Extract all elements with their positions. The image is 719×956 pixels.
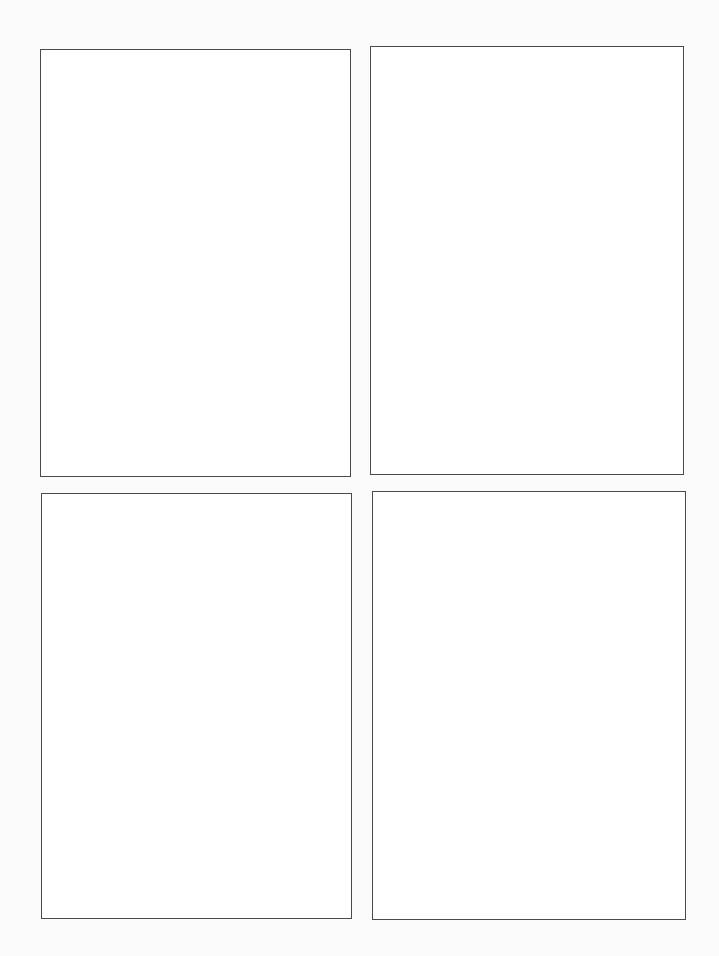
empty-panel-top-right [370, 46, 684, 475]
empty-panel-top-left [40, 49, 351, 477]
empty-panel-bottom-right [372, 491, 686, 920]
empty-panel-bottom-left [41, 493, 352, 919]
